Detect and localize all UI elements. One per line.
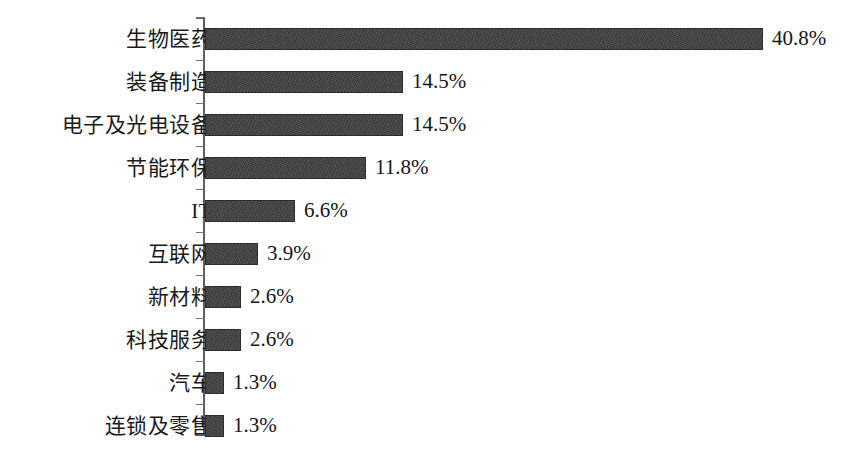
bar-group: 40.8% xyxy=(205,28,826,50)
bar-row: 科技服务 2.6% xyxy=(0,318,857,361)
axis-tick xyxy=(196,404,204,405)
bar-row: 节能环保 11.8% xyxy=(0,146,857,189)
bar-group: 2.6% xyxy=(205,329,294,351)
value-label: 2.6% xyxy=(250,286,294,307)
bar-group: 1.3% xyxy=(205,415,277,437)
value-label: 1.3% xyxy=(233,372,277,393)
bar-group: 6.6% xyxy=(205,200,348,222)
value-label: 3.9% xyxy=(267,243,311,264)
axis-tick xyxy=(196,232,204,233)
bar xyxy=(205,329,241,351)
category-label: 新材料 xyxy=(148,286,213,307)
bar-row: 装备制造 14.5% xyxy=(0,60,857,103)
bar-group: 2.6% xyxy=(205,286,294,308)
bar-group: 14.5% xyxy=(205,71,466,93)
bar-row: 新材料 2.6% xyxy=(0,275,857,318)
bar xyxy=(205,157,366,179)
category-label: 科技服务 xyxy=(126,329,212,350)
bar-group: 14.5% xyxy=(205,114,466,136)
bar-row: 生物医药 40.8% xyxy=(0,17,857,60)
axis-tick xyxy=(196,146,204,147)
value-label: 11.8% xyxy=(375,157,428,178)
value-label: 6.6% xyxy=(304,200,348,221)
bar xyxy=(205,200,295,222)
horizontal-bar-chart: 生物医药 40.8% 装备制造 14.5% 电子及光电设备 14.5% 节能环保… xyxy=(0,0,857,456)
axis-tick xyxy=(196,17,204,18)
value-label: 40.8% xyxy=(772,28,826,49)
axis-tick xyxy=(196,318,204,319)
axis-tick xyxy=(196,361,204,362)
bar xyxy=(205,286,241,308)
bar xyxy=(205,28,763,50)
bar-group: 1.3% xyxy=(205,372,277,394)
category-label: 电子及光电设备 xyxy=(62,114,213,135)
axis-tick xyxy=(196,275,204,276)
bar xyxy=(205,372,224,394)
bar xyxy=(205,114,403,136)
bar-row: 连锁及零售 1.3% xyxy=(0,404,857,447)
value-label: 14.5% xyxy=(412,114,466,135)
category-label: 互联网 xyxy=(148,243,213,264)
category-label: 生物医药 xyxy=(126,28,212,49)
bar-row: IT 6.6% xyxy=(0,189,857,232)
axis-tick xyxy=(196,60,204,61)
value-label: 14.5% xyxy=(412,71,466,92)
value-label: 1.3% xyxy=(233,415,277,436)
bar-group: 11.8% xyxy=(205,157,428,179)
category-label: 连锁及零售 xyxy=(105,415,213,436)
category-label: 装备制造 xyxy=(126,71,212,92)
bar-row: 互联网 3.9% xyxy=(0,232,857,275)
bar xyxy=(205,71,403,93)
bar-row: 电子及光电设备 14.5% xyxy=(0,103,857,146)
bar xyxy=(205,243,258,265)
value-label: 2.6% xyxy=(250,329,294,350)
axis-tick xyxy=(196,189,204,190)
category-label: 节能环保 xyxy=(126,157,212,178)
bar xyxy=(205,415,224,437)
bar-group: 3.9% xyxy=(205,243,311,265)
bar-row: 汽车 1.3% xyxy=(0,361,857,404)
axis-tick xyxy=(196,103,204,104)
